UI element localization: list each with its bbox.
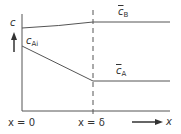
ca-profile-curve [22, 46, 170, 81]
y-axis-label: c [10, 18, 16, 28]
x-axis-label: x [166, 117, 172, 127]
c-b-sub: B [124, 11, 129, 19]
x-zero-label: x = 0 [8, 118, 35, 128]
cb-profile-curve [22, 22, 170, 28]
right-arrowhead-icon [155, 119, 163, 125]
c-a-sub: A [122, 70, 127, 78]
concentration-profile-diagram [0, 0, 181, 134]
c-b-label: cB [118, 7, 128, 19]
up-arrowhead-icon [11, 32, 17, 40]
x-delta-label: x = δ [78, 118, 105, 128]
c-ai-sub: Ai [32, 40, 39, 48]
c-ai-label: cAi [26, 36, 38, 48]
c-a-label: cA [116, 66, 126, 78]
